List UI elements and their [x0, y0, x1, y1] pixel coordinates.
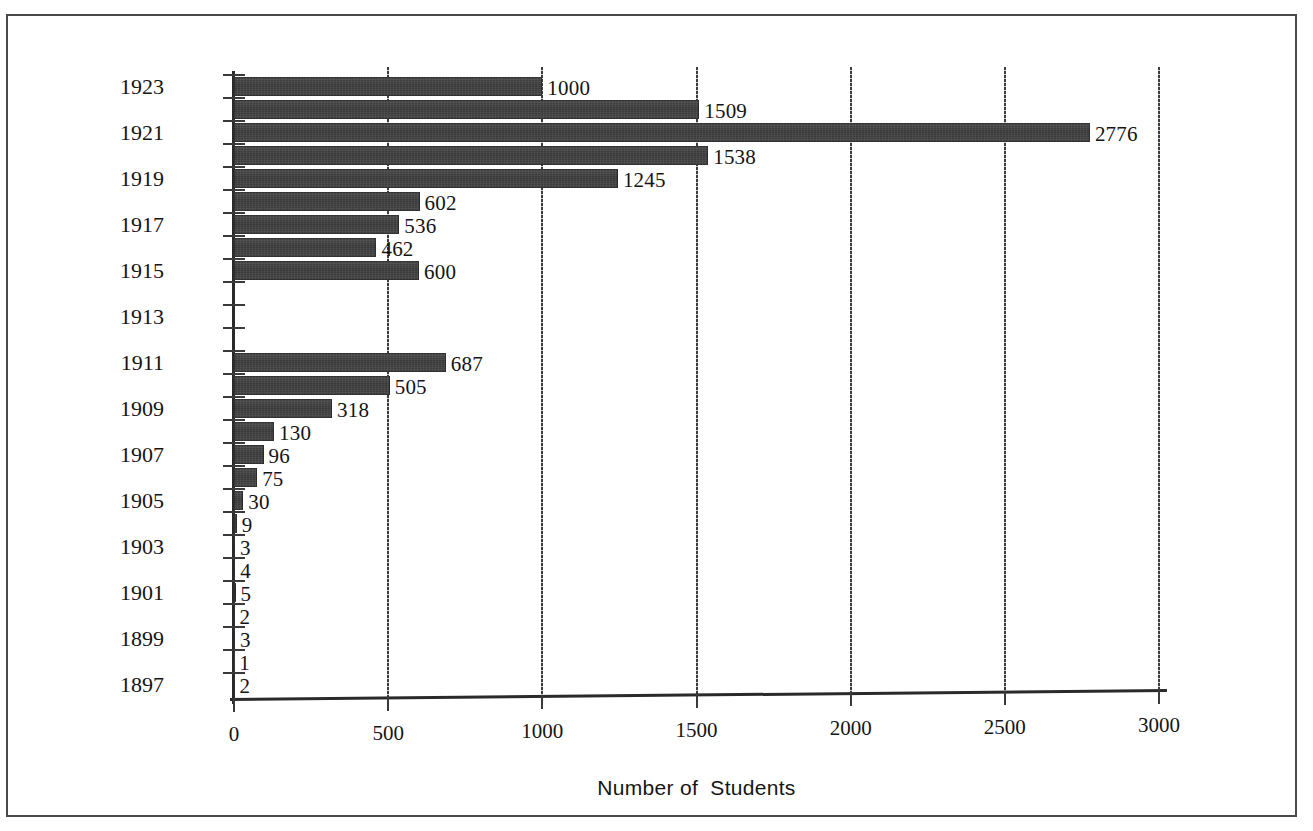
- x-axis-tick-label-1500: 1500: [652, 720, 742, 741]
- x-axis-tick-label-2500: 2500: [960, 717, 1050, 738]
- y-axis-label-1921: 1921: [78, 122, 164, 144]
- y-axis-label-1923: 1923: [78, 76, 164, 98]
- bar-1909: [234, 399, 332, 418]
- bar-value-label-1920: 1538: [713, 147, 756, 168]
- y-axis-tick: [223, 189, 245, 191]
- bar-1922: [234, 100, 699, 119]
- bar-value-label-1911: 687: [451, 354, 483, 375]
- bar-1907: [234, 445, 264, 464]
- bar-value-label-1921: 2776: [1095, 124, 1138, 145]
- y-axis-label-1907: 1907: [78, 444, 164, 466]
- bar-1911: [234, 353, 446, 372]
- y-axis-label-1919: 1919: [78, 168, 164, 190]
- bar-value-label-1916: 462: [381, 239, 413, 260]
- y-axis-tick: [223, 373, 245, 375]
- y-axis-label-1913: 1913: [78, 306, 164, 328]
- bar-1899: [234, 629, 235, 648]
- bar-chart-plot-area: 2132543930759613031850568760046253660212…: [8, 16, 1299, 819]
- x-axis-tick: [1158, 689, 1160, 703]
- bar-1902: [234, 560, 235, 579]
- y-axis-label-1897: 1897: [78, 674, 164, 696]
- bar-1910: [234, 376, 390, 395]
- bar-1901: [234, 583, 236, 602]
- bar-value-label-1915: 600: [424, 262, 456, 283]
- y-axis-tick: [223, 350, 245, 352]
- chart-frame: 2132543930759613031850568760046253660212…: [6, 14, 1297, 817]
- x-axis-tick: [1004, 691, 1006, 705]
- gridline-2500: [1004, 67, 1006, 704]
- bar-value-label-1902: 4: [240, 561, 251, 582]
- bar-value-label-1907: 96: [269, 446, 290, 467]
- bar-value-label-1899: 3: [240, 630, 251, 651]
- y-axis-tick: [223, 396, 245, 398]
- x-axis-tick: [233, 698, 235, 712]
- bar-1897: [234, 675, 235, 694]
- y-axis-label-1915: 1915: [78, 260, 164, 282]
- bar-1908: [234, 422, 274, 441]
- bar-1915: [234, 261, 419, 280]
- y-axis-label-1905: 1905: [78, 490, 164, 512]
- bar-value-label-1918: 602: [425, 193, 457, 214]
- y-axis-tick: [223, 327, 245, 329]
- bar-value-label-1903: 3: [240, 538, 251, 559]
- x-axis-line: [230, 689, 1167, 701]
- y-axis-label-1899: 1899: [78, 628, 164, 650]
- bar-value-label-1904: 9: [242, 515, 253, 536]
- x-axis-tick: [541, 695, 543, 709]
- bar-value-label-1908: 130: [279, 423, 311, 444]
- gridline-3000: [1158, 67, 1160, 704]
- y-axis-label-1911: 1911: [78, 352, 164, 374]
- y-axis-label-1917: 1917: [78, 214, 164, 236]
- y-axis-tick: [223, 419, 245, 421]
- y-axis-tick: [223, 281, 245, 283]
- bar-value-label-1897: 2: [240, 676, 251, 697]
- bar-value-label-1922: 1509: [704, 101, 747, 122]
- y-axis-tick: [223, 166, 245, 168]
- x-axis-tick-label-2000: 2000: [806, 718, 896, 739]
- y-axis-tick: [223, 304, 245, 306]
- bar-1921: [234, 123, 1090, 142]
- x-axis-tick-label-3000: 3000: [1114, 715, 1204, 736]
- y-axis-tick: [223, 258, 245, 260]
- bar-1916: [234, 238, 376, 257]
- y-axis-tick: [223, 120, 245, 122]
- gridline-2000: [850, 67, 852, 704]
- bar-1920: [234, 146, 708, 165]
- bar-value-label-1898: 1: [239, 653, 250, 674]
- bar-value-label-1919: 1245: [623, 170, 666, 191]
- y-axis-label-1901: 1901: [78, 582, 164, 604]
- bar-1903: [234, 537, 235, 556]
- bar-value-label-1923: 1000: [547, 78, 590, 99]
- x-axis-tick: [696, 694, 698, 708]
- y-axis-tick: [223, 212, 245, 214]
- x-axis-tick: [387, 697, 389, 711]
- bar-1906: [234, 468, 257, 487]
- bar-1918: [234, 192, 420, 211]
- bar-value-label-1900: 2: [240, 607, 251, 628]
- y-axis-tick: [223, 74, 245, 76]
- x-axis-tick-label-1000: 1000: [497, 721, 587, 742]
- y-axis-tick: [223, 235, 245, 237]
- bar-value-label-1901: 5: [241, 584, 252, 605]
- bar-value-label-1905: 30: [248, 492, 269, 513]
- bar-value-label-1909: 318: [337, 400, 369, 421]
- y-axis-tick: [223, 143, 245, 145]
- x-axis-tick-label-0: 0: [189, 724, 279, 745]
- bar-1923: [234, 77, 542, 96]
- y-axis-label-1909: 1909: [78, 398, 164, 420]
- bar-1905: [234, 491, 243, 510]
- bar-value-label-1910: 505: [395, 377, 427, 398]
- bar-1904: [234, 514, 237, 533]
- y-axis-label-1903: 1903: [78, 536, 164, 558]
- x-axis-tick: [850, 692, 852, 706]
- x-axis-tick-label-500: 500: [343, 723, 433, 744]
- y-axis-tick: [223, 97, 245, 99]
- bar-1900: [234, 606, 235, 625]
- bar-1919: [234, 169, 618, 188]
- x-axis-title: Number of Students: [537, 776, 857, 800]
- bar-1917: [234, 215, 399, 234]
- bar-value-label-1906: 75: [262, 469, 283, 490]
- bar-value-label-1917: 536: [404, 216, 436, 237]
- y-axis-tick: [223, 465, 245, 467]
- y-axis-tick: [223, 442, 245, 444]
